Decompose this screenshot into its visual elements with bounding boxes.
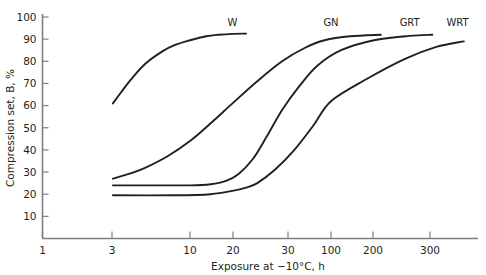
x-tick-label-30: 30 (281, 244, 294, 256)
series-label-grt: GRT (400, 17, 421, 28)
y-axis-title: Compression set, B, % (4, 69, 16, 187)
y-tick-label-80: 80 (23, 55, 36, 67)
x-tick-label-1: 1 (39, 244, 46, 256)
x-tick-label-200: 200 (363, 244, 383, 256)
x-tick-label-300: 300 (420, 244, 440, 256)
x-tick-label-10: 10 (183, 244, 196, 256)
curve-w (113, 34, 246, 104)
x-axis-ticks (43, 232, 431, 239)
y-tick-label-20: 20 (23, 188, 36, 200)
y-tick-label-100: 100 (16, 11, 36, 23)
data-curves (113, 34, 464, 196)
x-tick-label-20: 20 (226, 244, 239, 256)
chart-canvas: 102030405060708090100 13102030100200300 … (0, 0, 486, 275)
y-tick-label-90: 90 (23, 33, 36, 45)
series-label-wrt: WRT (446, 17, 469, 28)
series-labels: WGNGRTWRT (227, 17, 469, 28)
y-tick-label-10: 10 (23, 210, 36, 222)
x-tick-label-100: 100 (321, 244, 341, 256)
y-axis: 102030405060708090100 (16, 11, 48, 239)
y-axis-ticks (43, 17, 49, 216)
curve-gn (113, 35, 381, 179)
x-axis-title: Exposure at −10°C, h (211, 260, 325, 272)
x-tick-label-3: 3 (109, 244, 116, 256)
series-label-gn: GN (323, 17, 338, 28)
y-tick-label-50: 50 (23, 122, 36, 134)
x-axis-tick-labels: 13102030100200300 (39, 244, 440, 256)
curve-wrt (113, 41, 464, 195)
compression-set-chart: 102030405060708090100 13102030100200300 … (0, 0, 486, 275)
series-label-w: W (227, 17, 237, 28)
y-tick-label-70: 70 (23, 77, 36, 89)
y-axis-tick-labels: 102030405060708090100 (16, 11, 36, 222)
y-tick-label-30: 30 (23, 166, 36, 178)
y-tick-label-60: 60 (23, 99, 36, 111)
curve-grt (113, 35, 432, 186)
y-tick-label-40: 40 (23, 144, 36, 156)
x-axis: 13102030100200300 (39, 232, 478, 256)
